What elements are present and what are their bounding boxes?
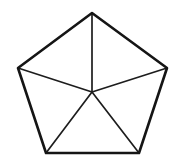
figure-canvas	[0, 0, 175, 165]
pentagon-diagram	[0, 0, 175, 165]
